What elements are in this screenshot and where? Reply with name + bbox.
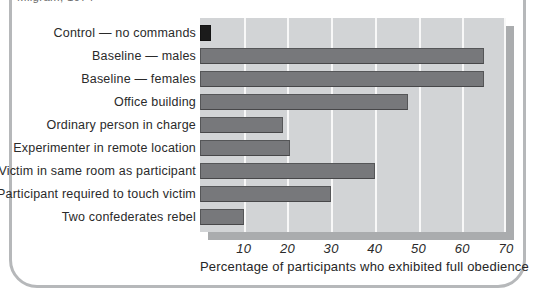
bar-row: [200, 45, 506, 68]
bar: [200, 117, 283, 133]
bar: [200, 163, 375, 179]
bar-row: [200, 91, 506, 114]
category-label: Office building: [12, 91, 196, 114]
category-label: Ordinary person in charge: [12, 114, 196, 137]
tick-label: 70: [498, 241, 513, 256]
x-axis-title: Percentage of participants who exhibited…: [200, 259, 506, 274]
plot-area: [200, 18, 506, 232]
bar-row: [200, 114, 506, 137]
bar: [200, 140, 290, 156]
category-axis-labels: Control — no commandsBaseline — malesBas…: [12, 18, 196, 232]
bar-row: [200, 68, 506, 91]
bar: [200, 186, 331, 202]
bar-row: [200, 136, 506, 159]
tick-label: 10: [236, 241, 251, 256]
bar-row: [200, 205, 506, 228]
x-axis-ticks: 10203040506070: [200, 241, 506, 257]
tick-label: 50: [411, 241, 426, 256]
category-label: Participant required to touch victim: [12, 182, 196, 205]
category-label: Two confederates rebel: [12, 205, 196, 228]
bar: [200, 209, 244, 225]
bar-row: [200, 22, 506, 45]
bar-row: [200, 182, 506, 205]
bar: [200, 71, 484, 87]
category-label: Baseline — males: [12, 45, 196, 68]
category-label: Control — no commands: [12, 22, 196, 45]
tick-label: 20: [280, 241, 295, 256]
tick-label: 40: [367, 241, 382, 256]
bar: [200, 94, 408, 110]
textbook-figure: Milgram, 1974 Control — no commandsBasel…: [0, 0, 542, 307]
bar: [200, 48, 484, 64]
bar-row: [200, 159, 506, 182]
bar: [200, 25, 211, 41]
figure-caption-cropped: Milgram, 1974: [17, 0, 94, 3]
category-label: Baseline — females: [12, 68, 196, 91]
tick-label: 60: [455, 241, 470, 256]
bar-series: [200, 18, 506, 232]
category-label: Victim in same room as participant: [12, 159, 196, 182]
category-label: Experimenter in remote location: [12, 136, 196, 159]
tick-label: 30: [324, 241, 339, 256]
